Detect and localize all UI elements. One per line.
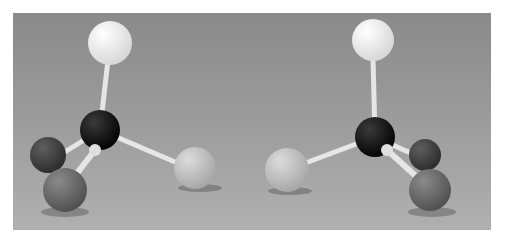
left-molecule bbox=[30, 21, 216, 212]
shadows bbox=[41, 184, 456, 217]
atom-light bbox=[174, 147, 216, 189]
atom-dark bbox=[30, 137, 66, 173]
molecular-models bbox=[0, 0, 506, 236]
atom-white bbox=[88, 21, 132, 65]
atom-mid bbox=[43, 168, 87, 212]
atom-light bbox=[265, 148, 309, 192]
right-molecule bbox=[265, 19, 451, 211]
atom-dark bbox=[409, 139, 441, 171]
atom-white bbox=[352, 19, 394, 61]
atom-carbon bbox=[80, 110, 120, 150]
atom-mid bbox=[409, 169, 451, 211]
